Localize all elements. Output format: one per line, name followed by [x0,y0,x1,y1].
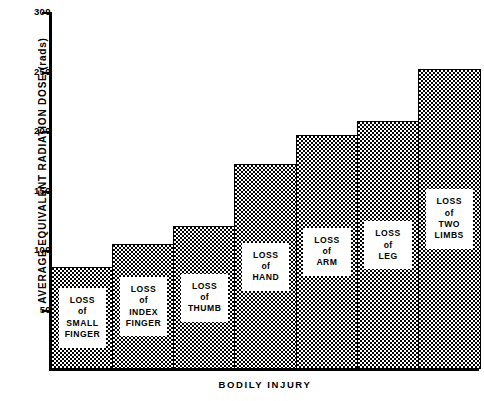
x-axis-title: BODILY INJURY [51,379,479,390]
bar-label-line: LOSS [62,295,103,306]
bar-label-line: of [62,306,103,317]
bar-label: LOSSofINDEXFINGER [120,277,167,336]
bar: LOSSofSMALLFINGER [51,267,114,369]
bar-label-line: LOSS [429,196,470,207]
y-tick-mark [42,191,51,193]
bar-label-line: LOSS [245,250,286,261]
bars-group: LOSSofSMALLFINGERLOSSofINDEXFINGERLOSSof… [51,12,479,369]
bar-label-line: LOSS [367,228,408,239]
y-tick-mark [42,72,51,74]
bar: LOSSofTWOLIMBS [418,69,481,369]
bar-label: LOSSofSMALLFINGER [59,288,106,347]
bar-label-line: of [245,261,286,272]
bar: LOSSofINDEXFINGER [112,244,175,369]
bar-label-line: of [123,295,164,306]
y-tick-mark [42,250,51,252]
bar: LOSSofARM [296,135,359,369]
bar-label-line: of [306,246,347,257]
bar-label-line: LOSS [306,235,347,246]
bar-label-line: LEG [367,251,408,262]
bar: LOSSofLEG [357,121,420,369]
y-tick-mark [42,131,51,133]
bar-label-line: HAND [245,272,286,283]
bar-label-line: TWO [429,219,470,230]
bar-label-line: FINGER [62,329,103,340]
bar-label-line: of [429,208,470,219]
bar-label-line: LIMBS [429,230,470,241]
bar-label-line: ARM [306,257,347,268]
bar-label-line: INDEX [123,307,164,318]
bar-label-line: LOSS [123,284,164,295]
bar-label: LOSSofTWOLIMBS [426,189,473,248]
bar-label: LOSSofLEG [364,221,411,269]
bar-label-line: FINGER [123,318,164,329]
bar: LOSSofTHUMB [173,226,236,369]
bar-label-line: THUMB [184,303,225,314]
bar-chart: AVERAGE EQUIVALENT RADIATION DOSE (rads)… [0,0,484,401]
y-tick-mark [42,12,51,14]
bar-label-line: of [367,240,408,251]
bar: LOSSofHAND [234,164,297,369]
bar-label-line: LOSS [184,281,225,292]
y-tick-mark [42,310,51,312]
bar-label: LOSSofARM [303,228,350,276]
bar-label: LOSSofTHUMB [181,274,228,322]
bar-label: LOSSofHAND [242,243,289,291]
bar-label-line: of [184,292,225,303]
bar-label-line: SMALL [62,318,103,329]
